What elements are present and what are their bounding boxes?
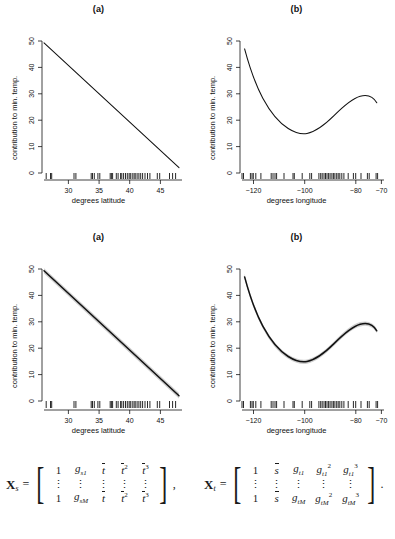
x-axis-label: degrees latitude — [0, 426, 197, 435]
svg-text:20: 20 — [28, 116, 35, 124]
svg-text:30: 30 — [226, 318, 233, 326]
matrix-Xt: 1 s gt1 gt12 gt13 ⋮ ⋮ ⋮ ⋮ ⋮ 1 s gtM — [245, 462, 364, 506]
svg-text:40: 40 — [126, 187, 134, 194]
matrix-row: 1 s gtM gtM2 gtM3 — [245, 491, 364, 507]
trailing-punctuation: , — [173, 477, 176, 492]
cell-r1c5: gt13 — [337, 462, 364, 478]
svg-text:0: 0 — [28, 171, 35, 175]
svg-text:−100: −100 — [297, 187, 313, 194]
cell-r2c5: ⋮ — [135, 478, 156, 491]
svg-text:40: 40 — [226, 291, 233, 299]
y-axis-ticks: 50 40 30 20 10 0 — [226, 37, 240, 175]
left-bracket: [ — [234, 462, 242, 506]
svg-text:45: 45 — [157, 417, 165, 424]
svg-text:−100: −100 — [297, 417, 313, 424]
svg-text:−80: −80 — [350, 417, 362, 424]
cell-r1c3: t — [93, 462, 114, 477]
fitted-curve — [245, 49, 377, 134]
cell-r1c5: t3 — [135, 462, 156, 477]
svg-text:−70: −70 — [375, 187, 387, 194]
cell-r2c5: ⋮ — [337, 478, 364, 491]
rug-marks — [46, 173, 175, 179]
svg-text:−80: −80 — [350, 187, 362, 194]
rug-marks — [242, 173, 378, 179]
cell-r3c3: t — [93, 490, 114, 505]
svg-text:50: 50 — [226, 265, 233, 273]
matrix-name-Xt: Xt — [204, 475, 216, 493]
x-axis-ticks: 30 35 40 45 — [65, 180, 165, 194]
svg-text:30: 30 — [65, 417, 73, 424]
svg-text:30: 30 — [65, 187, 73, 194]
svg-text:40: 40 — [226, 63, 233, 71]
cell-r1c4: gt12 — [310, 462, 337, 478]
svg-text:30: 30 — [28, 90, 35, 98]
x-axis-label: degrees longitude — [198, 426, 395, 435]
cell-r1c3: gt1 — [287, 462, 310, 478]
svg-text:20: 20 — [226, 344, 233, 352]
rug-marks — [242, 401, 378, 408]
equals-sign: = — [220, 477, 227, 492]
confidence-band — [245, 274, 377, 364]
svg-text:20: 20 — [226, 116, 233, 124]
cell-r3c4: gtM2 — [310, 491, 337, 507]
svg-text:10: 10 — [28, 371, 35, 379]
panel-bottom-left: (a) contribution to min. temp. 50 40 30 … — [0, 228, 197, 443]
cell-r3c4: t2 — [114, 490, 135, 505]
equation-Xs: Xs = [ 1 gs1 t t2 t3 ⋮ ⋮ ⋮ ⋮ ⋮ — [6, 462, 176, 506]
matrix-row: ⋮ ⋮ ⋮ ⋮ ⋮ — [48, 478, 156, 491]
plot-area-top-left: 50 40 30 20 10 0 30 35 40 45 — [0, 12, 197, 192]
cell-r1c2: s — [266, 462, 287, 478]
matrix-row: 1 gs1 t t2 t3 — [48, 462, 156, 477]
x-axis-label: degrees longitude — [198, 196, 395, 205]
right-bracket: ] — [367, 462, 375, 506]
trailing-punctuation: . — [381, 477, 384, 492]
cell-r2c1: ⋮ — [245, 478, 266, 491]
cell-r3c3: gtM — [287, 491, 310, 507]
svg-text:20: 20 — [28, 344, 35, 352]
cell-r3c5: t3 — [135, 490, 156, 505]
svg-text:35: 35 — [95, 417, 103, 424]
svg-text:30: 30 — [28, 318, 35, 326]
rug-marks — [46, 401, 175, 408]
svg-text:40: 40 — [126, 417, 134, 424]
plot-area-bottom-left: 50 40 30 20 10 0 30 35 40 45 — [0, 240, 197, 420]
panel-bottom-right: (b) contribution to min. temp. 50 40 30 … — [198, 228, 395, 443]
svg-text:50: 50 — [28, 37, 35, 45]
fitted-curve — [245, 277, 377, 362]
svg-text:−120: −120 — [246, 417, 262, 424]
cell-r1c1: 1 — [245, 462, 266, 478]
svg-text:45: 45 — [157, 187, 165, 194]
cell-r2c4: ⋮ — [310, 478, 337, 491]
svg-text:0: 0 — [226, 399, 233, 403]
cell-r2c1: ⋮ — [48, 478, 69, 491]
matrix-row: ⋮ ⋮ ⋮ ⋮ ⋮ — [245, 478, 364, 491]
x-axis-ticks: −120 −100 −80 −70 — [246, 410, 388, 424]
svg-text:−120: −120 — [246, 187, 262, 194]
cell-r2c2: ⋮ — [266, 478, 287, 491]
panel-top-left: (a) contribution to min. temp. 50 40 30 … — [0, 0, 197, 215]
cell-r2c3: ⋮ — [93, 478, 114, 491]
matrix-row: 1 s gt1 gt12 gt13 — [245, 462, 364, 478]
matrix-name-Xs: Xs — [6, 475, 19, 493]
cell-r3c1: 1 — [48, 490, 69, 505]
equals-sign: = — [23, 477, 30, 492]
cell-r3c5: gtM3 — [337, 491, 364, 507]
cell-r2c2: ⋮ — [69, 478, 93, 491]
plot-area-top-right: 50 40 30 20 10 0 −120 −100 −80 −70 — [198, 12, 395, 192]
y-axis-ticks: 50 40 30 20 10 0 — [28, 265, 42, 403]
cell-r3c2: gsM — [69, 490, 93, 505]
x-axis-ticks: −120 −100 −80 −70 — [246, 180, 388, 194]
equation-Xt: Xt = [ 1 s gt1 gt12 gt13 ⋮ ⋮ ⋮ ⋮ ⋮ — [204, 462, 384, 506]
panel-top-right: (b) contribution to min. temp. 50 40 30 … — [198, 0, 395, 215]
svg-text:35: 35 — [95, 187, 103, 194]
cell-r2c4: ⋮ — [114, 478, 135, 491]
svg-text:50: 50 — [28, 265, 35, 273]
matrix-Xs: 1 gs1 t t2 t3 ⋮ ⋮ ⋮ ⋮ ⋮ 1 gsM t t2 — [48, 462, 156, 505]
svg-text:10: 10 — [226, 143, 233, 151]
y-axis-ticks: 50 40 30 20 10 0 — [226, 265, 240, 403]
fitted-curve — [44, 271, 179, 396]
svg-text:40: 40 — [28, 63, 35, 71]
cell-r1c4: t2 — [114, 462, 135, 477]
cell-r1c2: gs1 — [69, 462, 93, 477]
fitted-curve — [44, 43, 179, 168]
